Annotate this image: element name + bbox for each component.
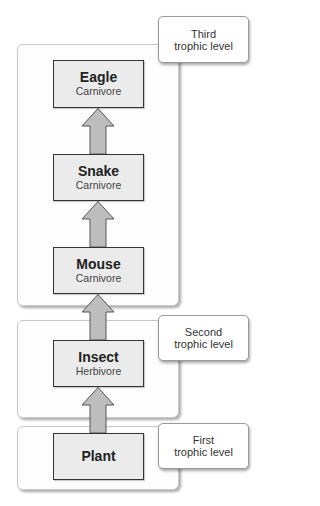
first-trophic-level-text: First trophic level [174, 434, 233, 458]
organism-role: Carnivore [76, 85, 122, 98]
organism-name: Insect [78, 350, 118, 365]
organism-name: Eagle [80, 70, 117, 85]
second-trophic-level-label: Second trophic level [158, 315, 249, 361]
organism-role: Carnivore [76, 179, 122, 192]
third-trophic-level-text: Third trophic level [174, 28, 233, 52]
arrow-snake-to-eagle-icon [81, 108, 115, 154]
arrow-mouse-to-snake-icon [81, 201, 115, 247]
organism-role: Carnivore [76, 272, 122, 285]
organism-plant: Plant [53, 433, 144, 480]
first-trophic-level-label: First trophic level [158, 423, 249, 469]
organism-role: Herbivore [76, 365, 122, 378]
organism-name: Plant [81, 449, 115, 464]
organism-name: Snake [78, 164, 119, 179]
second-trophic-level-text: Second trophic level [174, 326, 233, 350]
organism-insect: Insect Herbivore [53, 340, 144, 387]
organism-eagle: Eagle Carnivore [53, 60, 144, 108]
third-trophic-level-label: Third trophic level [158, 16, 249, 63]
organism-name: Mouse [76, 257, 120, 272]
organism-mouse: Mouse Carnivore [53, 247, 144, 294]
organism-snake: Snake Carnivore [53, 154, 144, 201]
arrow-plant-to-insect-icon [81, 387, 115, 433]
arrow-insect-to-mouse-icon [81, 294, 115, 340]
